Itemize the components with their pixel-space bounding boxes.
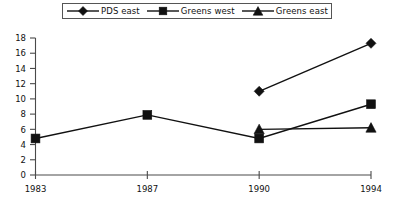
y-tick-label: 10 [15, 94, 26, 104]
line-chart: PDS east Greens west Greens east 0246810… [0, 0, 394, 205]
chart-series-group [31, 38, 376, 143]
y-axis: 024681012141618 [15, 33, 35, 180]
data-point-marker [366, 38, 376, 48]
y-tick-label: 12 [15, 79, 26, 89]
data-point-marker [367, 100, 376, 109]
data-point-marker [255, 134, 264, 143]
y-tick-label: 14 [15, 64, 26, 74]
series-line [36, 104, 372, 138]
y-tick-label: 8 [21, 109, 26, 119]
y-tick-label: 4 [21, 140, 26, 150]
data-point-marker [254, 86, 264, 96]
series-pds-east [254, 38, 376, 96]
x-tick-label: 1994 [360, 184, 382, 194]
y-axis-ticks: 024681012141618 [15, 33, 35, 180]
chart-plot-area: 024681012141618 1983198719901994 [0, 0, 394, 205]
x-tick-label: 1987 [137, 184, 159, 194]
y-tick-label: 18 [15, 33, 26, 43]
x-axis: 1983198719901994 [25, 171, 382, 194]
series-greens-west [31, 100, 375, 143]
y-tick-label: 6 [21, 125, 26, 135]
y-tick-label: 16 [15, 48, 26, 58]
data-point-marker [143, 110, 152, 119]
data-point-marker [31, 134, 40, 143]
series-line [259, 128, 371, 130]
y-tick-label: 2 [21, 155, 26, 165]
series-line [259, 43, 371, 91]
x-tick-label: 1990 [248, 184, 270, 194]
x-tick-label: 1983 [25, 184, 47, 194]
series-greens-east [254, 123, 376, 134]
y-tick-label: 0 [21, 170, 26, 180]
